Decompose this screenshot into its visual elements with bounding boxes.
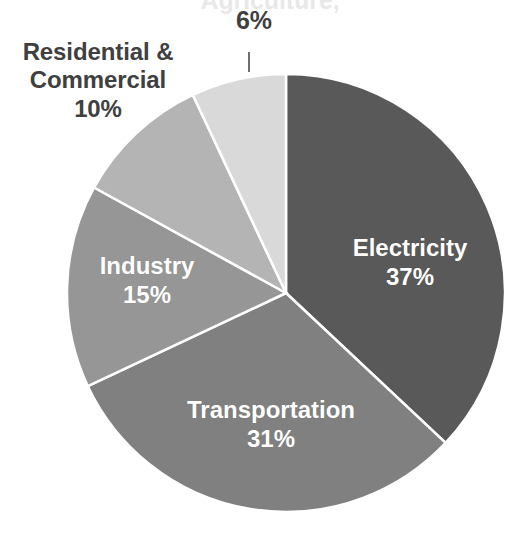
rescom-percent-text: 10% xyxy=(0,95,196,123)
electricity-percent-text: 37% xyxy=(320,263,500,292)
pie-chart-figure: Agriculture, 6% Residential & Commercial… xyxy=(0,0,512,533)
electricity-slice-label: Electricity 37% xyxy=(320,234,500,292)
industry-label-text: Industry xyxy=(74,252,220,281)
transportation-label-text: Transportation xyxy=(160,396,382,425)
agriculture-percent-text: 6% xyxy=(236,6,272,34)
agriculture-slice-percent: 6% xyxy=(184,6,324,36)
transportation-percent-text: 31% xyxy=(160,425,382,454)
residential-commercial-slice-label: Residential & Commercial 10% xyxy=(0,38,196,123)
rescom-label-line2: Commercial xyxy=(0,66,196,94)
transportation-slice-label: Transportation 31% xyxy=(160,396,382,454)
industry-percent-text: 15% xyxy=(74,281,220,310)
rescom-label-line1: Residential & xyxy=(0,38,196,66)
industry-slice-label: Industry 15% xyxy=(74,252,220,310)
electricity-label-text: Electricity xyxy=(320,234,500,263)
